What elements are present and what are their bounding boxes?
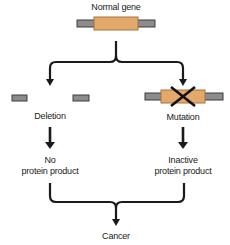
- deletion-label: Deletion: [20, 111, 80, 122]
- arrow-head-left-icon: [46, 79, 54, 86]
- no-product-label-line2: protein product: [10, 166, 90, 177]
- normal-gene-label: Normal gene: [76, 2, 156, 13]
- arrow-head-right-icon: [179, 79, 187, 86]
- inactive-product-label-line1: Inactive: [143, 155, 223, 166]
- normal-gene-icon: [77, 17, 155, 30]
- mutation-label: Mutation: [150, 112, 216, 123]
- no-product-label-line1: No: [10, 155, 90, 166]
- arrow-down-right-icon: [178, 142, 188, 149]
- deleted-gene-icon: [12, 95, 89, 101]
- arrow-head-bottom-icon: [112, 219, 120, 226]
- inactive-product-label-line2: protein product: [143, 166, 223, 177]
- split-bracket-arrow: [50, 41, 183, 80]
- merge-bracket-arrow: [50, 183, 184, 220]
- mutated-gene-icon: [145, 87, 223, 106]
- cancer-label: Cancer: [86, 231, 146, 242]
- down-arrows: [45, 127, 188, 149]
- arrow-down-left-icon: [45, 142, 55, 149]
